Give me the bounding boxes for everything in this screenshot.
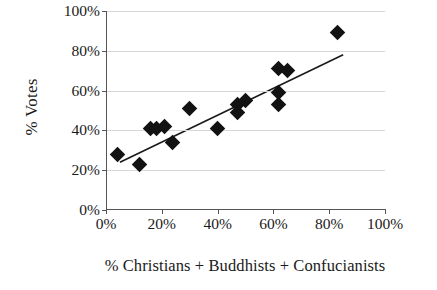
y-axis-tick-label: 40% <box>44 122 100 138</box>
x-axis-tick <box>273 209 274 214</box>
x-axis-tick-label: 0% <box>76 216 136 232</box>
x-axis-tick-label: 20% <box>132 216 192 232</box>
gridline <box>106 11 385 12</box>
y-axis-tick-label: 80% <box>44 43 100 59</box>
y-axis-tick-label: 100% <box>44 3 100 19</box>
x-axis-tick <box>162 209 163 214</box>
x-axis-tick-label: 60% <box>243 216 303 232</box>
y-axis-tick-label: 20% <box>44 162 100 178</box>
gridline <box>106 170 385 171</box>
gridline <box>106 51 385 52</box>
y-axis-tick-labels: 0%20%40%60%80%100% <box>40 0 100 290</box>
scatter-chart-figure: % Votes 0%20%40%60%80%100% 0%20%40%60%80… <box>0 0 437 290</box>
x-axis-tick-label: 100% <box>355 216 415 232</box>
x-axis-tick-label: 40% <box>188 216 248 232</box>
x-axis-tick-label: 80% <box>299 216 359 232</box>
y-axis-tick <box>102 170 107 171</box>
x-axis-tick <box>385 209 386 214</box>
y-axis-tick <box>102 130 107 131</box>
x-axis-tick <box>106 209 107 214</box>
y-axis-tick <box>102 11 107 12</box>
x-axis-title: % Christians + Buddhists + Confucianists <box>60 256 430 276</box>
x-axis-tick-labels: 0%20%40%60%80%100% <box>0 216 437 240</box>
y-axis-tick <box>102 51 107 52</box>
plot-area <box>106 11 385 210</box>
x-axis-tick <box>218 209 219 214</box>
y-axis-tick-label: 60% <box>44 83 100 99</box>
trend-line <box>106 11 385 210</box>
x-axis-tick <box>329 209 330 214</box>
gridline <box>106 91 385 92</box>
y-axis-tick <box>102 91 107 92</box>
